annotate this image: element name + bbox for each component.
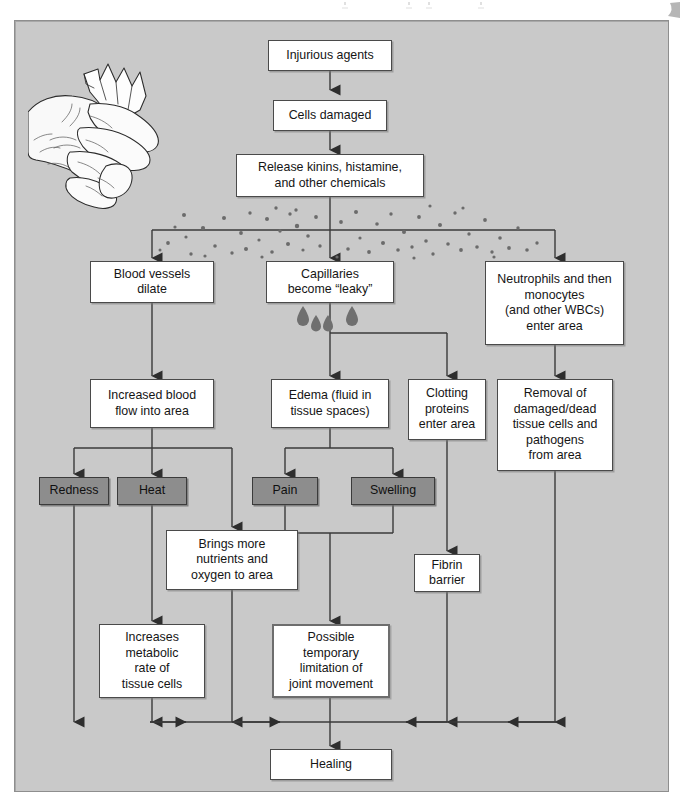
node-increases-metabolic-rate[interactable]: Increases metabolic rate of tissue cells xyxy=(99,624,205,698)
node-neutrophils-monocytes[interactable]: Neutrophils and then monocytes (and othe… xyxy=(485,261,624,345)
sign-swelling[interactable]: Swelling xyxy=(351,477,435,505)
node-joint-limitation[interactable]: Possible temporary limitation of joint m… xyxy=(272,624,390,698)
node-removal-of-debris[interactable]: Removal of damaged/dead tissue cells and… xyxy=(497,379,613,471)
node-fibrin-barrier[interactable]: Fibrin barrier xyxy=(414,554,480,592)
sign-pain[interactable]: Pain xyxy=(252,477,318,505)
node-release-chemicals[interactable]: Release kinins, histamine, and other che… xyxy=(236,154,424,197)
scan-artifact-marks xyxy=(330,1,540,11)
node-clotting-proteins[interactable]: Clotting proteins enter area xyxy=(408,379,486,440)
node-cells-damaged[interactable]: Cells damaged xyxy=(273,100,387,131)
node-capillaries-leaky[interactable]: Capillaries become “leaky” xyxy=(266,261,394,303)
sign-redness[interactable]: Redness xyxy=(39,477,109,505)
node-edema[interactable]: Edema (fluid in tissue spaces) xyxy=(271,379,389,428)
node-blood-vessels-dilate[interactable]: Blood vessels dilate xyxy=(90,261,214,303)
hand-with-glass-shard-illustration xyxy=(28,52,208,227)
figure-canvas: Injurious agents Cells damaged Release k… xyxy=(0,0,680,802)
page-corner-mark xyxy=(666,2,680,18)
node-increased-blood-flow[interactable]: Increased blood flow into area xyxy=(90,379,214,428)
node-brings-nutrients[interactable]: Brings more nutrients and oxygen to area xyxy=(166,530,298,590)
node-injurious-agents[interactable]: Injurious agents xyxy=(268,40,392,71)
sign-heat[interactable]: Heat xyxy=(117,477,187,505)
node-healing[interactable]: Healing xyxy=(270,749,392,780)
